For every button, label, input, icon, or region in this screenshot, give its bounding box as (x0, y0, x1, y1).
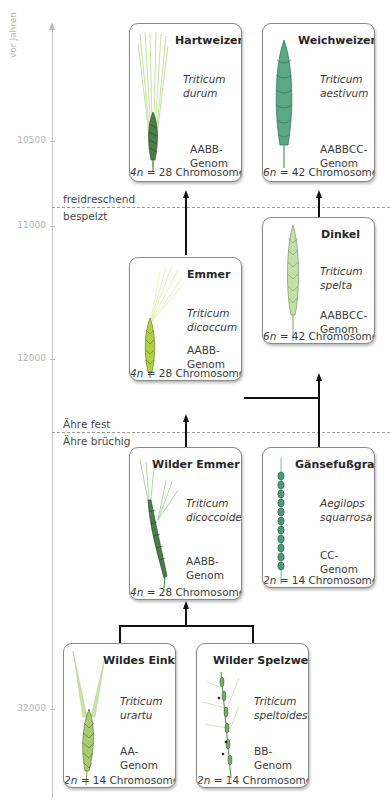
divider-threshing (52, 207, 390, 208)
species-name: Wildes Einkorn (103, 654, 176, 667)
arrow-head-icon (316, 190, 322, 198)
wheat-ear-icon (136, 32, 170, 172)
genome-label: AABB- (190, 142, 223, 156)
species-card-weichweizen: Weichweizen Triticum aestivum AABBCC- Ge… (262, 23, 375, 182)
arrow-head-icon (183, 190, 189, 198)
divider-label-bespelzt: bespelzt (63, 210, 107, 222)
genome-word: Genom (120, 758, 158, 772)
species-name: Weichweizen (298, 34, 375, 47)
chromosome-count: 6n = 42 Chromosomen (263, 330, 374, 342)
latin-species: squarrosa (320, 510, 372, 524)
divider-label-aehre-fest: Ähre fest (63, 418, 110, 430)
time-axis (52, 28, 53, 798)
connector-diploid-horizontal (119, 625, 254, 627)
chromosome-count: 2n = 14 Chromosomen (263, 574, 374, 586)
species-name: Wilder Spelzweizen (213, 654, 309, 667)
tick-label-11000: 11000 (14, 220, 46, 230)
genome-label: AABBCC- (320, 308, 367, 322)
species-name: Hartweizen (175, 34, 242, 47)
chromosome-count: 2n = 14 Chromosomen (197, 774, 308, 786)
latin-species: urartu (120, 708, 153, 722)
tick-label-32000: 32000 (14, 703, 46, 713)
species-name: Gänsefußgras (295, 458, 375, 471)
arrow-head-icon (183, 414, 189, 422)
wheat-ear-icon (136, 460, 186, 590)
species-card-wilder-spelzweizen: Wilder Spelzweizen Triticum speltoides B… (196, 643, 309, 788)
tick-mark (50, 709, 55, 710)
genome-label: CC- (320, 548, 338, 562)
connector-einkorn (119, 625, 121, 643)
latin-genus: Triticum (120, 694, 163, 708)
grass-ear-icon (271, 456, 291, 586)
latin-genus: Aegilops (320, 496, 365, 510)
species-card-gaensefussgras: Gänsefußgras Aegilops squarrosa CC- Geno… (262, 447, 375, 588)
latin-genus: Triticum (320, 264, 363, 278)
species-card-emmer: Emmer Triticum dicoccum AABB- Genom 4n =… (129, 257, 242, 381)
grass-ear-icon (201, 668, 241, 788)
connector-spelzweizen (252, 625, 254, 643)
chromosome-count: 4n = 28 Chromosomen (130, 586, 241, 598)
wheat-ear-icon (69, 647, 109, 787)
latin-species: dicoccum (187, 320, 237, 334)
latin-genus: Triticum (187, 306, 230, 320)
genome-label: AABB- (186, 554, 219, 568)
tick-label-10500: 10500 (14, 135, 46, 145)
latin-species: dicoccoides (186, 510, 242, 524)
tick-mark (50, 141, 55, 142)
axis-title: vor Jahren (8, 12, 18, 58)
latin-genus: Triticum (320, 72, 363, 86)
species-name: Wilder Emmer (152, 458, 240, 471)
connector-emmer-hartweizen (185, 198, 187, 255)
chromosome-count: 4n = 28 Chromosomen (130, 166, 241, 178)
tick-mark (50, 226, 55, 227)
genome-label: AA- (120, 744, 138, 758)
axis-arrow-icon (49, 22, 55, 30)
species-card-wildes-einkorn: Wildes Einkorn Triticum urartu AA- Genom… (63, 643, 176, 788)
wheat-ear-icon (134, 264, 184, 379)
chromosome-count: 4n = 28 Chromosomen (130, 367, 241, 379)
latin-genus: Triticum (183, 72, 226, 86)
connector-emmer-dinkel-horizontal (244, 397, 320, 399)
chromosome-count: 6n = 42 Chromosomen (263, 166, 374, 178)
genome-label: AABBCC- (320, 142, 367, 156)
genome-word: Genom (186, 568, 224, 582)
arrow-head-icon (316, 373, 322, 381)
tick-label-12000: 12000 (14, 353, 46, 363)
latin-genus: Triticum (186, 496, 229, 510)
species-card-dinkel: Dinkel Triticum spelta AABBCC- Genom 6n … (262, 217, 375, 344)
divider-label-freidreschend: freidreschend (63, 193, 135, 205)
connector-gaensefussgras-dinkel (318, 381, 320, 448)
genome-label: BB- (254, 744, 272, 758)
genome-label: AABB- (187, 343, 220, 357)
chromosome-count: 2n = 14 Chromosomen (64, 774, 175, 786)
wheat-ear-icon (269, 30, 299, 170)
latin-species: spelta (320, 278, 352, 292)
species-name: Dinkel (321, 228, 360, 241)
species-name: Emmer (187, 268, 230, 281)
species-card-hartweizen: Hartweizen Triticum durum AABB- Genom 4n… (129, 23, 242, 182)
connector-wilder-emmer-stem (185, 608, 187, 626)
wheat-ear-icon (281, 223, 305, 343)
divider-rachis (52, 432, 390, 433)
arrow-head-icon (183, 601, 189, 609)
latin-genus: Triticum (254, 694, 297, 708)
latin-species: aestivum (320, 86, 369, 100)
tick-mark (50, 359, 55, 360)
connector-dinkel-weichweizen (318, 198, 320, 217)
species-card-wilder-emmer: Wilder Emmer Triticum dicoccoides AABB- … (129, 447, 242, 600)
latin-species: durum (183, 86, 218, 100)
latin-species: speltoides (254, 708, 308, 722)
divider-label-aehre-bruechig: Ähre brüchig (63, 435, 130, 447)
genome-word: Genom (254, 758, 292, 772)
connector-wilder-emmer-emmer (185, 421, 187, 447)
